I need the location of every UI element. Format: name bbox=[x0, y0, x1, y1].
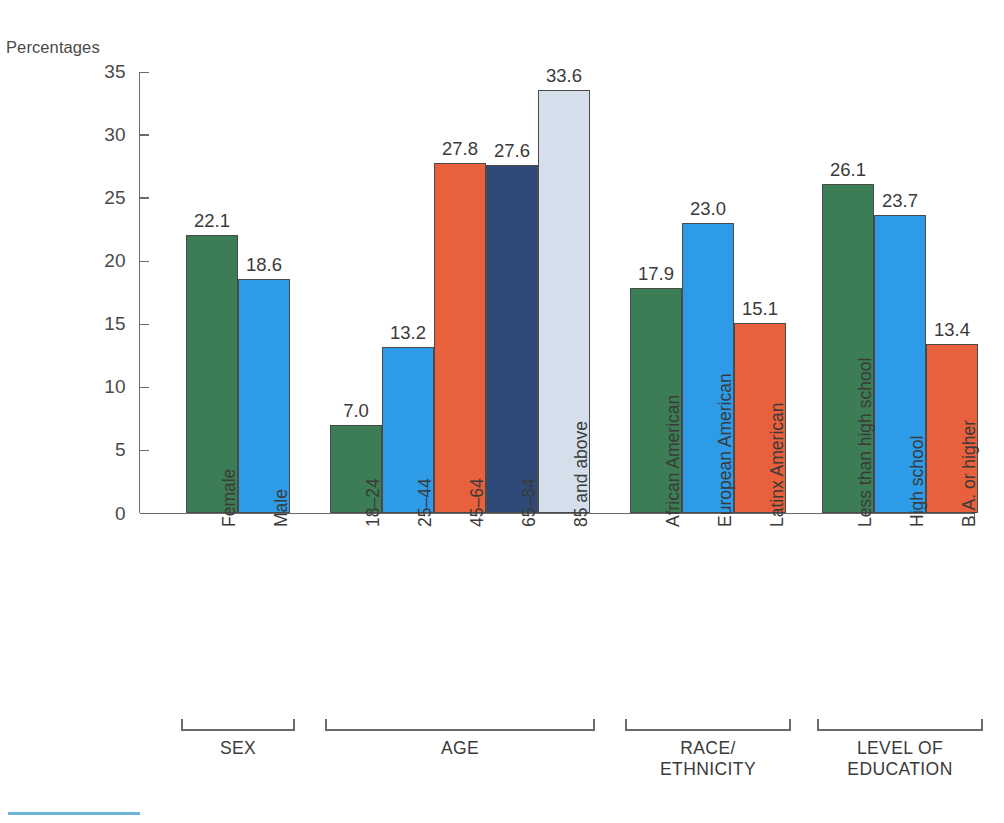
category-label: European American bbox=[715, 373, 736, 527]
bar-value-label: 27.8 bbox=[442, 138, 478, 160]
bar-value-label: 15.1 bbox=[742, 298, 778, 320]
group-name-label: AGE bbox=[441, 738, 479, 759]
bar bbox=[434, 163, 486, 514]
bar-value-label: 23.0 bbox=[690, 198, 726, 220]
y-axis-tick-label: 20 bbox=[88, 250, 126, 272]
bar-value-label: 26.1 bbox=[830, 159, 866, 181]
category-label: 18–24 bbox=[363, 478, 384, 527]
category-label: African American bbox=[663, 395, 684, 527]
category-label: Less than high school bbox=[855, 358, 876, 527]
category-label: Latinx American bbox=[767, 402, 788, 527]
bar-value-label: 13.4 bbox=[934, 319, 970, 341]
group-name-label: LEVEL OF EDUCATION bbox=[847, 738, 952, 779]
y-axis-tick-label: 5 bbox=[88, 439, 126, 461]
group-bracket bbox=[626, 719, 790, 730]
category-label: 25–44 bbox=[415, 478, 436, 527]
bar bbox=[238, 279, 290, 514]
group-bracket bbox=[326, 719, 594, 730]
y-axis-tick-label: 25 bbox=[88, 187, 126, 209]
bar-value-label: 7.0 bbox=[343, 400, 369, 422]
category-label: Male bbox=[271, 489, 292, 527]
bar bbox=[486, 165, 538, 513]
group-bracket bbox=[818, 719, 982, 730]
bar-value-label: 18.6 bbox=[246, 254, 282, 276]
y-axis-tick-label: 15 bbox=[88, 313, 126, 335]
y-axis-tick-label: 10 bbox=[88, 376, 126, 398]
bar-value-label: 13.2 bbox=[390, 322, 426, 344]
category-label: 45–64 bbox=[467, 478, 488, 527]
footer-rule bbox=[8, 812, 140, 815]
category-label: High school bbox=[907, 436, 928, 527]
bar-value-label: 22.1 bbox=[194, 210, 230, 232]
y-axis-tick-label: 0 bbox=[88, 503, 126, 525]
group-name-label: RACE/ ETHNICITY bbox=[660, 738, 756, 779]
category-label: B.A. or higher bbox=[959, 420, 980, 527]
bar-value-label: 27.6 bbox=[494, 140, 530, 162]
bar-chart: Percentages 35302520151050 22.118.67.013… bbox=[0, 0, 1004, 823]
group-bracket bbox=[182, 719, 294, 730]
y-axis-tick-label: 35 bbox=[88, 61, 126, 83]
group-name-label: SEX bbox=[220, 738, 256, 759]
category-label: Female bbox=[219, 469, 240, 527]
bar-value-label: 33.6 bbox=[546, 65, 582, 87]
category-label: 65–84 bbox=[519, 478, 540, 527]
bar-value-label: 17.9 bbox=[638, 263, 674, 285]
y-axis-tick-label: 30 bbox=[88, 124, 126, 146]
category-label: 85 and above bbox=[571, 421, 592, 527]
bar-value-label: 23.7 bbox=[882, 190, 918, 212]
